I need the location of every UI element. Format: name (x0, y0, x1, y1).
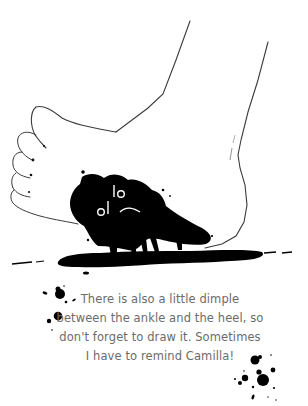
ink-streak (36, 261, 44, 262)
caption: There is also a little dimple between th… (40, 290, 280, 366)
ink-streak (282, 252, 292, 253)
ink-streak (264, 252, 276, 253)
caption-line-3: don't forget to draw it. Sometimes (40, 328, 280, 347)
caption-line-4: I have to remind Camilla! (40, 347, 280, 366)
ankle-dimple-mark-2 (233, 135, 235, 143)
toe-2 (13, 152, 30, 178)
ink-puddle (58, 250, 263, 267)
ankle-dimple-mark (230, 148, 232, 160)
shin-line (116, 21, 190, 132)
calf-line (205, 42, 268, 248)
toe-1 (18, 132, 36, 160)
caption-line-2: between the ankle and the heel, so (40, 309, 280, 328)
toe-3 (12, 173, 30, 197)
caption-line-1: There is also a little dimple (40, 290, 280, 309)
ink-drip (176, 240, 182, 250)
ink-streak (12, 262, 32, 264)
foot-top-line (31, 107, 116, 148)
